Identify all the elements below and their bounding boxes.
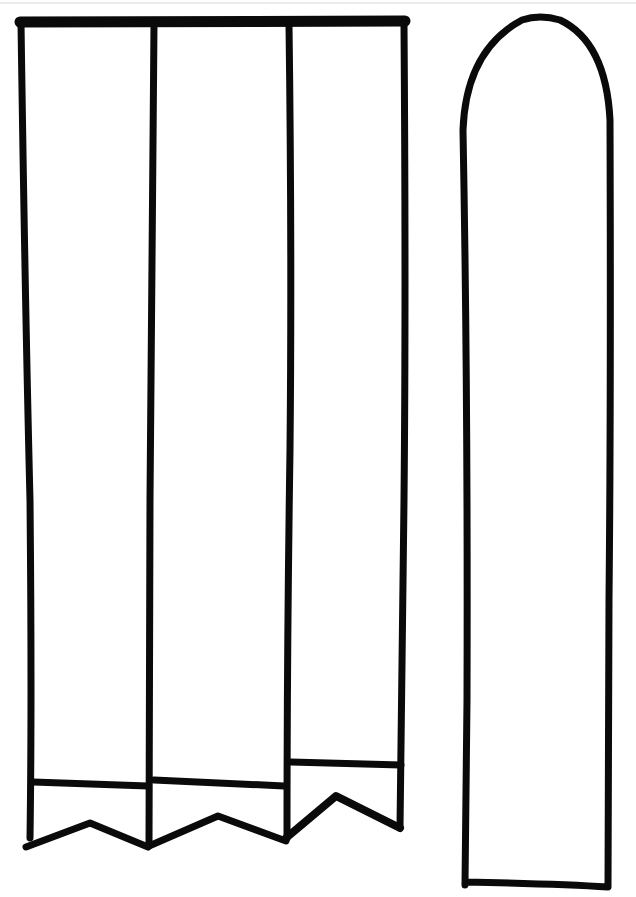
- banner-panels-group: [20, 21, 405, 847]
- arch-strip-outline: [463, 17, 610, 887]
- craft-template-drawing: [0, 0, 636, 897]
- banner-top-bar: [20, 21, 405, 22]
- banner-divider-1: [149, 24, 154, 846]
- panel-1-notch: [26, 823, 148, 847]
- banner-right-edge: [400, 24, 405, 828]
- banner-left-edge: [21, 22, 31, 838]
- panel-2-notch: [149, 816, 286, 846]
- panel-1-band-line: [33, 782, 148, 786]
- banner-divider-2: [287, 24, 291, 838]
- panel-3-band-line: [291, 762, 401, 765]
- panel-3-notch: [286, 796, 400, 838]
- arch-strip-group: [463, 17, 610, 887]
- panel-2-band-line: [154, 780, 284, 786]
